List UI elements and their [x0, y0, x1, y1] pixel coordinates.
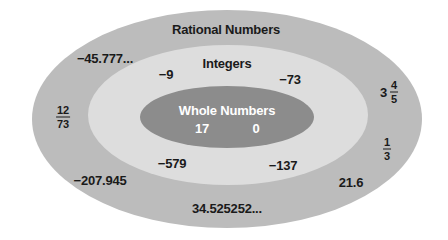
integer-member: −9	[159, 67, 173, 82]
rational-member: 21.6	[339, 175, 364, 190]
fraction: 4 5	[390, 80, 398, 105]
rational-numbers-title: Rational Numbers	[172, 22, 280, 37]
denominator: 73	[57, 118, 69, 130]
integers-title: Integers	[203, 56, 252, 71]
whole-number-member: 0	[252, 121, 259, 136]
integer-member: −579	[158, 156, 186, 171]
numerator: 12	[56, 105, 70, 118]
integer-member: −137	[269, 158, 297, 173]
denominator: 5	[391, 93, 397, 105]
denominator: 3	[384, 150, 390, 162]
rational-member-mixed-number: 3 4 5	[380, 80, 398, 105]
numerator: 4	[390, 80, 398, 93]
fraction: 1 3	[383, 137, 391, 162]
whole-numbers-title: Whole Numbers	[179, 103, 275, 118]
integer-member: −73	[279, 72, 300, 87]
rational-member: 34.525252...	[192, 201, 262, 216]
whole-part: 3	[380, 85, 387, 100]
rational-member: −45.777...	[77, 51, 133, 66]
rational-member-fraction: 1 3	[383, 137, 391, 162]
numerator: 1	[383, 137, 391, 150]
rational-member: −207.945	[74, 173, 127, 188]
fraction: 12 73	[56, 105, 70, 130]
rational-member-fraction: 12 73	[56, 105, 70, 130]
whole-number-member: 17	[195, 121, 209, 136]
mixed-number: 3 4 5	[380, 80, 398, 105]
